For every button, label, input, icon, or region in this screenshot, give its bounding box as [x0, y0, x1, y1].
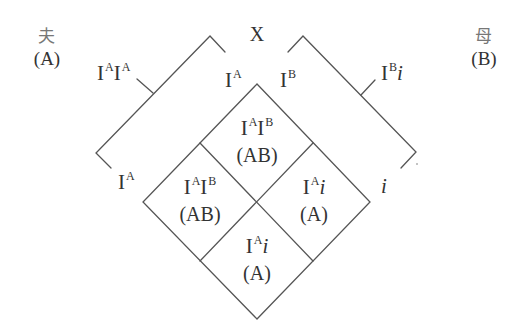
father-phenotype: (A) [34, 48, 60, 69]
cross-symbol: X [250, 24, 264, 44]
mother-genotype: IBi [381, 63, 403, 84]
stray-dot [416, 163, 418, 165]
mother-bracket-tick [361, 80, 375, 95]
diagram-lines [0, 0, 532, 336]
mother-cjk-label: 母 [471, 28, 496, 45]
mother-phenotype: (B) [471, 48, 496, 69]
offspring-cell-right: IAi (A) [300, 177, 328, 224]
father-label: 夫 (A) [34, 28, 60, 68]
punnett-diamond-diagram: 夫 (A) 母 (B) X IAIA IBi IA IB IA i IAIB (… [0, 0, 532, 336]
father-gamete-top: IA [225, 70, 242, 91]
father-genotype: IAIA [97, 63, 130, 84]
mother-gamete-top: IB [280, 70, 296, 91]
father-cjk-label: 夫 [34, 28, 60, 45]
offspring-bottom-genotype: IAi [243, 236, 271, 257]
father-bracket-tick [137, 79, 153, 93]
mother-label: 母 (B) [471, 28, 496, 68]
offspring-cell-bottom: IAi (A) [243, 236, 271, 283]
father-gamete-bottom: IA [118, 172, 135, 193]
offspring-right-genotype: IAi [300, 177, 328, 198]
offspring-top-genotype: IAIB [236, 118, 277, 139]
offspring-cell-left: IAIB (AB) [179, 177, 220, 224]
mother-gamete-bottom: i [381, 176, 387, 197]
offspring-left-phenotype: (AB) [179, 204, 220, 224]
offspring-bottom-phenotype: (A) [243, 263, 271, 283]
offspring-left-genotype: IAIB [179, 177, 220, 198]
offspring-right-phenotype: (A) [300, 204, 328, 224]
offspring-top-phenotype: (AB) [236, 145, 277, 165]
offspring-cell-top: IAIB (AB) [236, 118, 277, 165]
